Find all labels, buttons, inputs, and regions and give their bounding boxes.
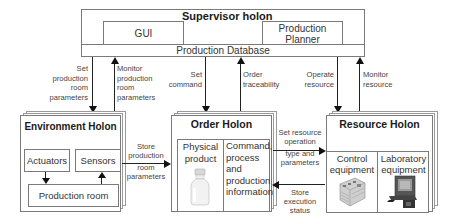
order-holon: Order Holon Physical product Command, pr… [171, 115, 272, 212]
arrow-monitor-resource [359, 63, 360, 112]
gui-label: GUI [104, 28, 183, 39]
arrowhead-up-icon [237, 57, 245, 64]
label-set-production-room-parameters: Set production room parameters [40, 64, 88, 102]
plc-controller-icon [337, 176, 367, 208]
actuators-box: Actuators [24, 149, 70, 172]
vial-icon [188, 168, 212, 206]
production-planner-label-1: Production [263, 23, 342, 34]
command-process-info-label: Command, process and production informat… [226, 140, 273, 198]
arrowhead-up-icon [98, 172, 106, 178]
actuators-label: Actuators [25, 155, 69, 166]
laboratory-equipment-icon [385, 174, 421, 210]
order-divider [223, 139, 224, 212]
arrow-room-to-sensors [101, 178, 102, 184]
arrowhead-up-icon [111, 57, 119, 64]
arrow-store-execution-status [279, 184, 325, 185]
physical-product-label: Physical product [178, 141, 223, 165]
arrow-monitor-production-room-parameters [114, 63, 115, 112]
supervisor-holon-title: Supervisor holon [182, 10, 272, 22]
resource-holon: Resource Holon Control equipment Laborat… [326, 115, 433, 212]
production-room-label: Production room [29, 190, 118, 201]
laboratory-equipment-label: Laboratory equipment [378, 153, 429, 175]
arrowhead-up-icon [356, 57, 364, 64]
label-store-production-room-parameters: Store production room parameters [124, 143, 168, 181]
label-operate-resource: Operate resource [290, 70, 334, 89]
sensors-box: Sensors [75, 149, 121, 172]
sensors-label: Sensors [76, 155, 120, 166]
arrowhead-down-icon [42, 178, 50, 184]
arrow-set-production-room-parameters [92, 57, 93, 107]
arrow-set-command [205, 57, 206, 107]
arrow-order-traceability [240, 63, 241, 112]
production-database-label: Production Database [81, 45, 365, 56]
label-set-resource-operation: Set resource operation type and paramete… [276, 129, 324, 167]
order-holon-title: Order Holon [172, 118, 271, 130]
label-order-traceability: Order traceability [243, 70, 279, 89]
gui-box: GUI [103, 21, 184, 45]
label-set-command: Set command [160, 70, 202, 89]
label-monitor-production-room-parameters: Monitor production room parameters [117, 64, 155, 102]
label-monitor-resource: Monitor resource [363, 70, 393, 89]
environment-holon-title: Environment Holon [21, 121, 120, 132]
label-store-execution-status: Store execution status [276, 188, 324, 215]
environment-holon: Environment Holon Actuators Sensors Prod… [20, 115, 121, 212]
production-planner-box: Production Planner [262, 21, 343, 45]
production-room-box: Production room [28, 184, 119, 207]
arrow-operate-resource [337, 57, 338, 107]
control-equipment-label: Control equipment [327, 153, 377, 175]
resource-holon-title: Resource Holon [327, 118, 432, 130]
